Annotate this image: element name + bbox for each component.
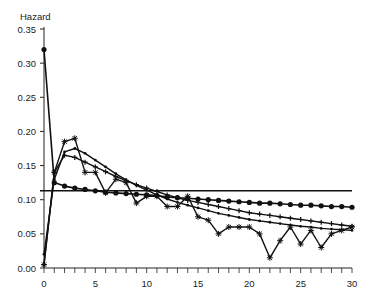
dot-marker <box>104 166 107 169</box>
circle-marker <box>206 197 211 202</box>
star-marker <box>349 224 355 230</box>
dot-marker <box>114 172 117 175</box>
star-marker <box>133 200 139 206</box>
series-2 <box>42 153 355 267</box>
y-tick-label: 0.20 <box>18 126 37 137</box>
x-tick-label: 25 <box>295 278 306 289</box>
circle-marker <box>298 203 303 208</box>
star-marker <box>72 135 78 141</box>
star-marker <box>113 176 119 182</box>
plus-marker <box>247 210 252 215</box>
plus-marker <box>237 208 242 213</box>
plus-marker <box>319 220 324 225</box>
star-marker <box>185 193 191 199</box>
circle-marker <box>216 198 221 203</box>
star-marker <box>123 180 129 186</box>
dot-marker <box>268 221 271 224</box>
dot-marker <box>320 227 323 230</box>
plus-marker <box>339 222 344 227</box>
y-axis-title: Hazard <box>20 11 51 22</box>
star-marker <box>195 214 201 220</box>
star-marker <box>328 231 334 237</box>
dot-marker <box>299 225 302 228</box>
dot-marker <box>227 214 230 217</box>
dot-marker <box>197 207 200 210</box>
dot-marker <box>94 159 97 162</box>
dot-marker <box>217 212 220 215</box>
series-line <box>44 50 352 208</box>
star-marker <box>62 139 68 145</box>
dot-marker <box>63 151 66 154</box>
star-marker <box>246 224 252 230</box>
dot-marker <box>207 209 210 212</box>
plus-marker <box>216 204 221 209</box>
plus-marker <box>226 206 231 211</box>
dot-marker <box>73 147 76 150</box>
dot-marker <box>330 228 333 231</box>
dot-marker <box>248 218 251 221</box>
dot-marker <box>176 201 179 204</box>
star-marker <box>339 227 345 233</box>
plus-marker <box>298 217 303 222</box>
plus-marker <box>206 202 211 207</box>
circle-marker <box>267 201 272 206</box>
circle-marker <box>124 191 129 196</box>
star-marker <box>318 245 324 251</box>
x-tick-label: 30 <box>347 278 358 289</box>
star-marker <box>92 169 98 175</box>
star-marker <box>216 231 222 237</box>
circle-marker <box>288 202 293 207</box>
plus-marker <box>308 218 313 223</box>
circle-marker <box>41 47 46 52</box>
y-tick-label: 0.15 <box>18 160 37 171</box>
dot-marker <box>186 204 189 207</box>
circle-marker <box>278 201 283 206</box>
star-marker <box>164 204 170 210</box>
y-tick-label: 0.30 <box>18 58 37 69</box>
star-marker <box>226 224 232 230</box>
y-tick-label: 0.10 <box>18 194 37 205</box>
plus-marker <box>154 189 159 194</box>
plus-marker <box>72 155 77 160</box>
dot-marker <box>166 198 169 201</box>
circle-marker <box>329 204 334 209</box>
star-marker <box>144 193 150 199</box>
star-marker <box>257 231 263 237</box>
y-tick-label: 0.25 <box>18 92 37 103</box>
series-line <box>44 155 352 264</box>
circle-marker <box>349 205 354 210</box>
circle-marker <box>308 203 313 208</box>
plus-marker <box>278 214 283 219</box>
star-marker <box>287 224 293 230</box>
star-marker <box>41 262 47 268</box>
circle-marker <box>319 203 324 208</box>
circle-marker <box>82 187 87 192</box>
x-tick-label: 0 <box>41 278 46 289</box>
star-marker <box>298 241 304 247</box>
circle-marker <box>236 199 241 204</box>
star-marker <box>51 169 57 175</box>
circle-marker <box>93 188 98 193</box>
star-marker <box>308 227 314 233</box>
plus-marker <box>257 212 262 217</box>
series-layer <box>40 47 355 268</box>
circle-marker <box>247 200 252 205</box>
dot-marker <box>238 216 241 219</box>
star-marker <box>267 255 273 261</box>
circle-marker <box>134 192 139 197</box>
circle-marker <box>339 204 344 209</box>
plus-marker <box>288 216 293 221</box>
star-marker <box>236 224 242 230</box>
star-marker <box>154 193 160 199</box>
dot-marker <box>145 189 148 192</box>
star-marker <box>103 190 109 196</box>
circle-marker <box>113 190 118 195</box>
y-tick-label: 0.35 <box>18 24 37 35</box>
circle-marker <box>257 201 262 206</box>
star-marker <box>82 169 88 175</box>
series-1 <box>41 47 354 210</box>
x-tick-label: 20 <box>244 278 255 289</box>
x-tick-label: 15 <box>193 278 204 289</box>
star-marker <box>174 204 180 210</box>
x-tick-label: 5 <box>93 278 98 289</box>
